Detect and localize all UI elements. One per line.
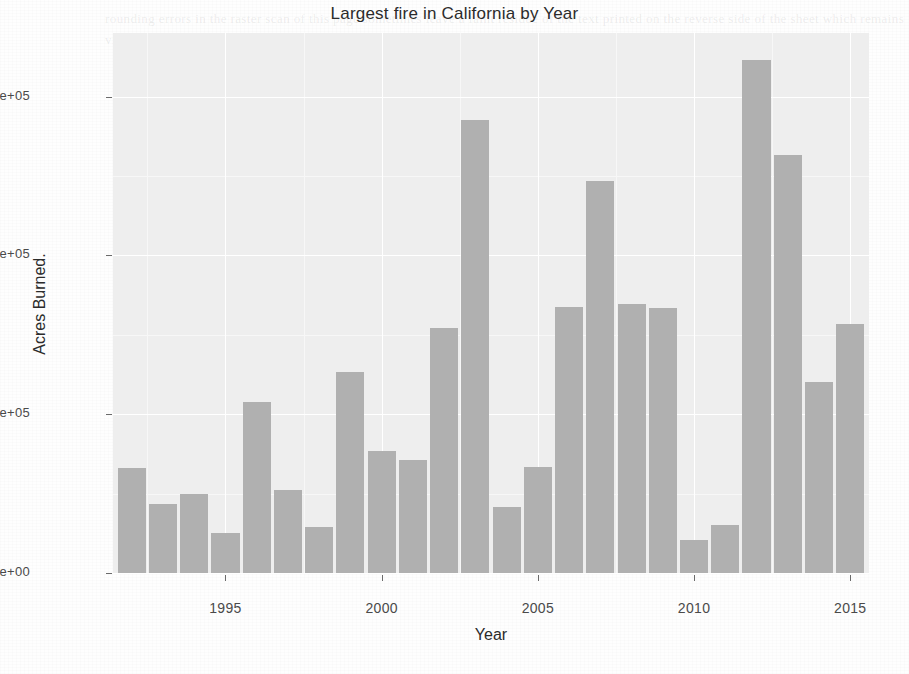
y-axis-title: Acres Burned.	[31, 204, 49, 404]
y-tick-label: 2e+05	[0, 246, 30, 261]
bar	[493, 507, 521, 573]
y-tick-mark	[106, 414, 112, 415]
bar	[836, 324, 864, 573]
bar	[399, 460, 427, 573]
y-tick-mark	[106, 573, 112, 574]
bar	[461, 120, 489, 573]
bar	[618, 304, 646, 573]
bar	[742, 60, 770, 573]
x-tick-label: 2005	[522, 600, 554, 616]
gridline-y-major	[113, 573, 869, 574]
bar	[774, 155, 802, 573]
bar	[430, 328, 458, 573]
gridline-x-major	[225, 33, 226, 573]
y-tick-label: 1e+05	[0, 405, 30, 420]
y-tick-mark	[106, 255, 112, 256]
bar	[274, 490, 302, 573]
bar	[805, 382, 833, 573]
bar	[305, 527, 333, 573]
bar	[180, 494, 208, 573]
bar	[524, 467, 552, 573]
bar	[149, 504, 177, 573]
bar	[368, 451, 396, 573]
bar	[555, 307, 583, 573]
x-tick-mark	[850, 575, 851, 581]
chart-container: rounding errors in the raster scan of th…	[0, 0, 909, 674]
bar	[243, 402, 271, 573]
y-tick-mark	[106, 97, 112, 98]
gridline-x-major	[694, 33, 695, 573]
bar	[586, 181, 614, 573]
bar	[211, 533, 239, 573]
x-tick-label: 2010	[678, 600, 710, 616]
x-tick-mark	[382, 575, 383, 581]
x-tick-mark	[694, 575, 695, 581]
gridline-x-minor	[304, 33, 305, 573]
bar	[118, 468, 146, 573]
x-tick-label: 2015	[834, 600, 866, 616]
x-axis-title: Year	[113, 626, 869, 644]
bar	[680, 540, 708, 573]
x-tick-mark	[225, 575, 226, 581]
bar	[649, 308, 677, 573]
bar	[336, 372, 364, 573]
gridline-x-minor	[147, 33, 148, 573]
x-tick-label: 1995	[209, 600, 241, 616]
x-tick-mark	[538, 575, 539, 581]
plot-panel	[113, 33, 869, 573]
y-tick-label: 0e+00	[0, 564, 30, 579]
chart-title: Largest fire in California by Year	[0, 4, 909, 24]
y-tick-label: 3e+05	[0, 88, 30, 103]
x-tick-label: 2000	[365, 600, 397, 616]
bar	[711, 525, 739, 573]
